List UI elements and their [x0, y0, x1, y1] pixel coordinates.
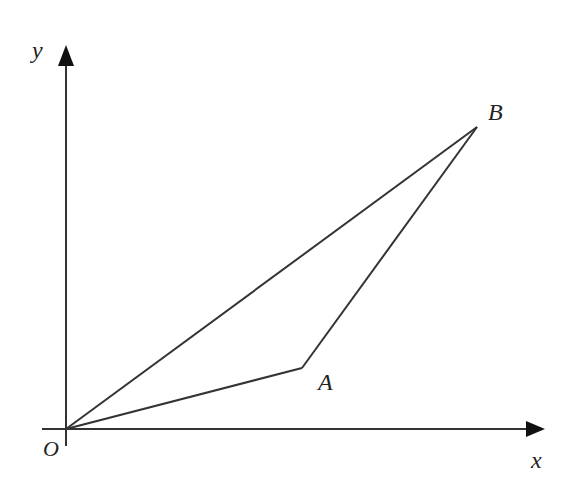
segment-OA	[66, 368, 302, 429]
point-B-label: B	[488, 100, 503, 124]
x-axis-label: x	[531, 448, 542, 472]
segment-AB	[302, 127, 477, 368]
diagram: y x O A B	[0, 0, 570, 493]
diagram-canvas	[0, 0, 570, 493]
origin-label: O	[43, 438, 59, 460]
segment-OB	[66, 127, 477, 429]
y-axis-arrow-icon	[58, 45, 74, 66]
y-axis-label: y	[32, 38, 43, 62]
x-axis-arrow-icon	[526, 421, 545, 437]
point-A-label: A	[318, 370, 333, 394]
